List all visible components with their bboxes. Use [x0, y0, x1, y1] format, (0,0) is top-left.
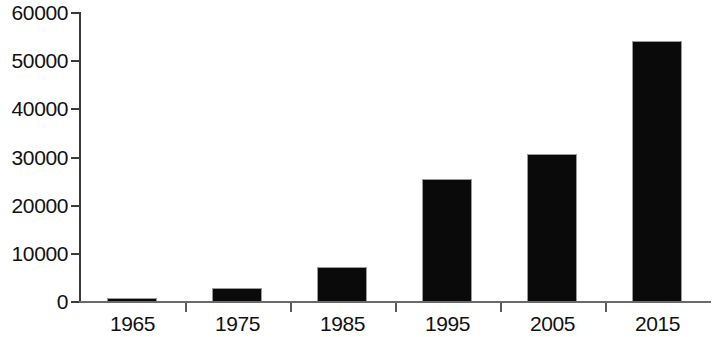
bar-2005 [528, 155, 576, 302]
x-axis-tick [395, 303, 397, 312]
y-axis-tick-label: 60000 [0, 2, 68, 23]
x-axis-tick [185, 303, 187, 312]
x-axis-tick [605, 303, 607, 312]
y-axis-tick [71, 12, 80, 14]
bar-chart: 6000050000400003000020000100000 19651975… [0, 0, 719, 337]
y-axis-tick-label: 30000 [0, 147, 68, 168]
bar-1985 [318, 268, 366, 302]
y-axis-tick [71, 205, 80, 207]
y-axis-tick-label: 50000 [0, 50, 68, 71]
x-axis-tick [290, 303, 292, 312]
y-axis-tick-label: 10000 [0, 243, 68, 264]
x-axis-tick-label: 2005 [500, 312, 605, 336]
y-axis-tick-label: 0 [0, 291, 68, 312]
y-axis-tick [71, 108, 80, 110]
x-axis-tick-label: 1965 [80, 312, 185, 336]
x-axis-tick-label: 1975 [185, 312, 290, 336]
x-axis-tick-label: 2015 [605, 312, 710, 336]
y-axis-tick [71, 253, 80, 255]
x-axis-tick-label: 1995 [395, 312, 500, 336]
y-axis-tick-label: 20000 [0, 195, 68, 216]
bar-2015 [633, 42, 681, 302]
y-axis-tick-label: 40000 [0, 98, 68, 119]
y-axis-tick [71, 157, 80, 159]
x-axis-tick-label: 1985 [290, 312, 395, 336]
x-axis-tick [500, 303, 502, 312]
y-axis-tick [71, 60, 80, 62]
bar-1995 [423, 180, 471, 302]
